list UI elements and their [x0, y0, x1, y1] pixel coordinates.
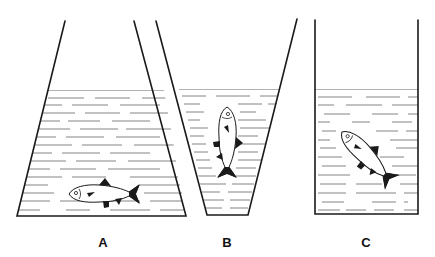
label-a: A — [98, 235, 107, 250]
fish-containers-diagram — [0, 0, 435, 257]
container-c-outline — [315, 20, 418, 214]
container-c — [315, 20, 418, 214]
label-b: B — [222, 235, 231, 250]
fish-a-horizontal — [69, 178, 140, 208]
label-c: C — [361, 235, 370, 250]
container-a — [0, 21, 200, 216]
fish-b-vertical — [213, 107, 243, 178]
